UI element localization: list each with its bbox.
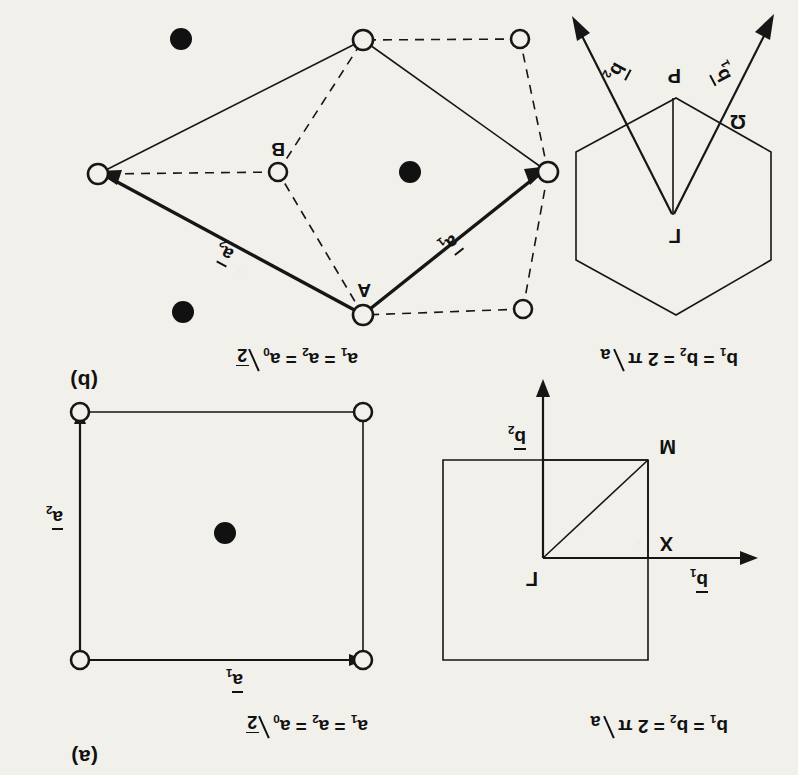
atom-open-corner-tl xyxy=(354,651,372,669)
atom-open-b xyxy=(269,163,287,181)
panel-a-square-bz-drawing xyxy=(398,365,788,695)
bz-point-gamma-label: Γ xyxy=(669,224,681,247)
vector-b2-shaft xyxy=(580,32,672,214)
over-a-fraction: a xyxy=(592,718,618,737)
panel-a-vector-b1-label: b1 xyxy=(690,567,708,593)
scanned-figure-page: (a) a1 = a2 = a02 a1 xyxy=(0,0,798,775)
bz-point-p-label: P xyxy=(668,64,681,87)
atom-filled-centre xyxy=(214,522,236,544)
bz-point-gamma-label: Γ xyxy=(526,567,538,590)
panel-a-vector-a1-label: a1 xyxy=(226,667,243,693)
dashed-top-left-link xyxy=(363,309,523,315)
panel-a-reciprocal-constant-equation: b1 = b2 = 2 πa xyxy=(592,713,728,737)
bz-point-omega-label: Ω xyxy=(730,110,746,133)
vector-b1-arrowhead xyxy=(740,551,758,565)
atom-open-a xyxy=(353,305,373,325)
panel-b-atom-b-label: B xyxy=(271,138,285,160)
panel-a-vector-a2-label: a2 xyxy=(46,504,63,530)
dashed-bottom-left-link xyxy=(363,39,520,40)
panel-a-figure-label: (a) xyxy=(71,745,98,769)
panel-b-real-space: a1 = a2 = a02 xyxy=(3,5,553,375)
bz-point-x-label: X xyxy=(660,532,673,555)
atom-open-corner-tr xyxy=(71,651,89,669)
atom-open-right-vertex xyxy=(88,164,108,184)
atom-open-corner-bl xyxy=(354,403,372,421)
panel-b-hexagon-bz-drawing xyxy=(513,10,793,340)
panel-a-square-cell-drawing xyxy=(8,380,393,700)
dashed-b-to-right xyxy=(98,172,278,174)
over-a-fraction: a xyxy=(602,351,628,370)
wedge-diagonal-m-to-gamma xyxy=(543,460,648,558)
atom-filled-lower-right xyxy=(170,28,192,50)
panel-b-atom-a-label: A xyxy=(357,279,371,301)
bz-point-m-label: M xyxy=(659,435,676,458)
panel-a-brillouin-zone: b1 = b2 = 2 πa Γ X M b1 b2 xyxy=(398,395,788,745)
vector-b1-shaft xyxy=(674,30,767,214)
vector-b2-arrowhead xyxy=(536,379,550,397)
atom-open-bottom-vertex xyxy=(353,30,373,50)
vector-b1-arrowhead xyxy=(755,14,774,40)
bz-square-outline xyxy=(443,460,648,660)
atom-filled-centre xyxy=(399,161,421,183)
panel-b-rhombic-cell-drawing xyxy=(3,7,553,337)
panel-a-vector-b2-label: b2 xyxy=(508,424,526,450)
panel-a-lattice-constant-equation: a1 = a2 = a02 xyxy=(248,713,368,737)
panel-a-real-space: a1 = a2 = a02 a1 a2 xyxy=(8,395,393,745)
panel-b-lattice-constant-equation: a1 = a2 = a02 xyxy=(238,346,358,370)
sqrt-fraction: 2 xyxy=(238,351,264,370)
panel-b-reciprocal-constant-equation: b1 = b2 = 2 πa xyxy=(602,346,738,370)
atom-filled-upper-right xyxy=(172,301,194,323)
sqrt-fraction: 2 xyxy=(248,718,274,737)
panel-b-brillouin-zone: b1 = b2 = 2 πa Γ Ω P b1 b2 xyxy=(513,5,793,375)
dashed-b-to-bottom xyxy=(278,40,363,172)
atom-open-corner-br xyxy=(71,403,89,421)
vector-b2-arrowhead xyxy=(572,16,590,41)
cell-edge-lower-right xyxy=(98,40,363,174)
